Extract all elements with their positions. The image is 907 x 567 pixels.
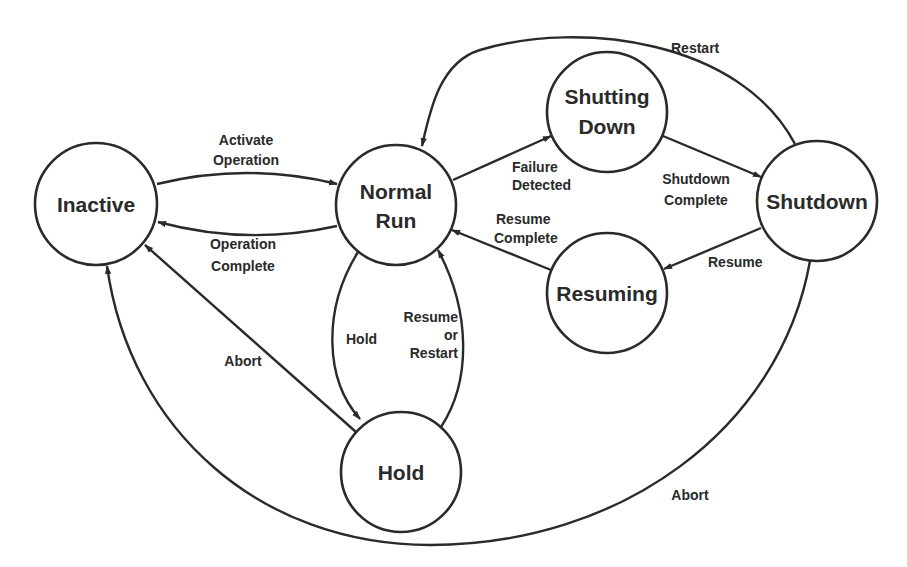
edge-operation-complete [158, 222, 337, 235]
label-shutdown-complete-line1: Shutdown [662, 171, 730, 187]
state-label-line2: Run [376, 209, 417, 232]
state-resuming: Resuming [547, 233, 667, 353]
label-activate-line2: Operation [213, 152, 279, 168]
state-label: Inactive [57, 193, 135, 216]
label-resume-or-restart-line3: Restart [410, 345, 459, 361]
state-label: Resuming [556, 282, 658, 305]
label-abort-from-hold: Abort [224, 353, 262, 369]
edge-activate-operation [157, 173, 337, 184]
label-operation-complete-line1: Operation [210, 236, 276, 252]
state-label-line2: Down [578, 115, 635, 138]
label-abort-from-shutdown: Abort [671, 487, 709, 503]
state-label: Shutdown [766, 190, 867, 213]
state-label: Hold [378, 461, 425, 484]
state-diagram: Inactive Normal Run Shutting Down Shutdo… [0, 0, 907, 567]
state-hold: Hold [341, 412, 461, 532]
label-activate-line1: Activate [219, 132, 274, 148]
state-shutdown: Shutdown [757, 141, 877, 261]
label-hold: Hold [346, 331, 377, 347]
label-failure-line1: Failure [512, 159, 558, 175]
label-resume-complete-line1: Resume [496, 211, 551, 227]
label-resume-or-restart-line2: or [444, 327, 459, 343]
state-shutting-down: Shutting Down [547, 52, 667, 172]
state-label-line1: Shutting [564, 85, 649, 108]
label-resume-or-restart-line1: Resume [404, 309, 459, 325]
label-operation-complete-line2: Complete [211, 258, 275, 274]
label-failure-line2: Detected [512, 177, 571, 193]
label-shutdown-complete-line2: Complete [664, 192, 728, 208]
state-label-line1: Normal [360, 180, 432, 203]
label-restart: Restart [671, 40, 720, 56]
label-resume-complete-line2: Complete [494, 230, 558, 246]
state-normal-run: Normal Run [336, 145, 456, 265]
label-resume: Resume [708, 254, 763, 270]
state-inactive: Inactive [35, 143, 157, 265]
